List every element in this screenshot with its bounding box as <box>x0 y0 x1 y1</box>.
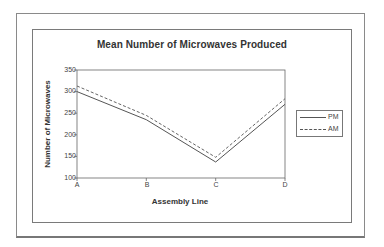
series-am-line <box>77 86 285 157</box>
y-axis-ticks <box>74 70 77 178</box>
legend-item-pm: PM <box>299 112 341 122</box>
legend: PM AM <box>296 110 343 137</box>
legend-label-pm: PM <box>328 113 339 120</box>
legend-item-am: AM <box>299 124 341 134</box>
series-pm-line <box>77 92 285 162</box>
solid-line-icon <box>300 117 326 118</box>
dashed-line-icon <box>300 129 326 130</box>
plot-border <box>77 70 285 178</box>
x-axis-ticks <box>77 178 285 181</box>
legend-label-am: AM <box>328 125 339 132</box>
